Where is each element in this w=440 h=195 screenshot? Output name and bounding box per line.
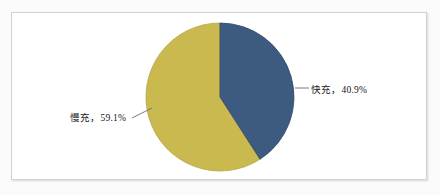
pie-label-fast: 快充，40.9% [311, 82, 367, 96]
pie-svg [0, 0, 440, 195]
pie-label-slow: 慢充，59.1% [70, 110, 126, 124]
plot-area: 快充，40.9% 慢充，59.1% [0, 0, 440, 195]
pie-chart-figure: 快充，40.9% 慢充，59.1% [0, 0, 440, 195]
